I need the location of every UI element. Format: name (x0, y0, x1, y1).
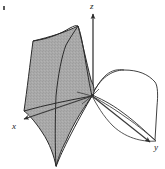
figure-container: z (0, 0, 165, 169)
axis-x-label: x (11, 121, 16, 131)
axis-y-label: y (153, 142, 158, 152)
axis-z-label: z (89, 1, 94, 11)
white-surface-outline (92, 70, 158, 140)
shaded-surface (24, 26, 94, 167)
surface-diagram-svg: z (0, 0, 165, 169)
white-surface (92, 70, 158, 142)
